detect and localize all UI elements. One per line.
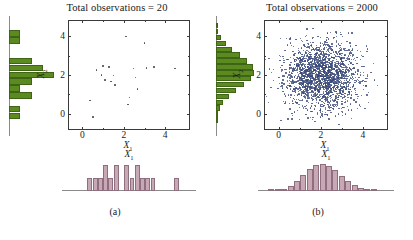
scatter-point (174, 68, 176, 70)
histogram-bar (281, 189, 287, 191)
scatter-point (293, 55, 294, 56)
scatter-point (320, 37, 321, 38)
scatter-point (324, 94, 325, 95)
scatter-point (306, 74, 307, 75)
scatter-point (320, 116, 321, 117)
scatter-point (306, 28, 307, 29)
scatter-point (353, 99, 354, 100)
scatter-point (291, 86, 292, 87)
scatter-point (348, 70, 349, 71)
scatter-point (303, 108, 304, 109)
scatter-point (340, 58, 341, 59)
scatter-point (331, 84, 332, 85)
scatter-point (363, 66, 364, 67)
scatter-point (349, 79, 350, 80)
scatter-point (350, 103, 351, 104)
scatter-point (283, 83, 284, 84)
scatter-point (270, 87, 271, 88)
histogram-bar (288, 186, 294, 191)
scatter-point (299, 78, 300, 79)
scatter-point (315, 105, 316, 106)
scatter-point (295, 39, 296, 40)
scatter-point (324, 62, 325, 63)
scatter-point (290, 88, 291, 89)
scatter-point (338, 77, 339, 78)
scatter-point (320, 62, 321, 63)
scatter-point (348, 64, 349, 65)
panel-a-scatter-area: 024024X1X2 (68, 20, 190, 130)
scatter-point (299, 77, 300, 78)
x-axis-minor-tick (145, 128, 146, 130)
scatter-point (289, 108, 290, 109)
scatter-point (331, 70, 332, 71)
scatter-point (283, 60, 284, 61)
histogram-bar (345, 181, 351, 191)
histogram-bar (135, 165, 140, 191)
histogram-bar (300, 175, 306, 191)
scatter-point (348, 55, 349, 56)
scatter-point (290, 57, 291, 58)
y-axis-minor-tick (68, 94, 70, 95)
scatter-point (330, 112, 331, 113)
scatter-point (330, 107, 331, 108)
panel-a-scatter-plot (68, 20, 190, 130)
scatter-point (324, 75, 325, 76)
y-axis-tick (385, 114, 388, 115)
scatter-point (289, 64, 290, 65)
scatter-point (338, 43, 339, 44)
x-axis-tick (321, 20, 322, 23)
scatter-point (325, 53, 326, 54)
scatter-point (266, 96, 267, 97)
scatter-point (296, 102, 297, 103)
scatter-point (299, 83, 300, 84)
scatter-point (326, 92, 327, 93)
histogram-bar (358, 188, 364, 191)
scatter-point (338, 108, 339, 109)
scatter-point (284, 103, 285, 104)
scatter-point (283, 62, 284, 63)
scatter-point (336, 59, 337, 60)
panel-b-marginal-histogram-x1: X1 (264, 160, 388, 196)
scatter-point (332, 99, 333, 100)
scatter-point (273, 80, 274, 81)
scatter-point (363, 72, 364, 73)
scatter-point (311, 105, 312, 106)
scatter-point (321, 101, 322, 102)
x-axis-minor-tick (145, 20, 146, 22)
scatter-point (336, 32, 337, 33)
scatter-point (315, 86, 316, 87)
y-axis-minor-tick (188, 94, 190, 95)
scatter-point (308, 56, 309, 57)
scatter-point (333, 38, 334, 39)
histogram-bar (108, 178, 113, 191)
panel-a-caption: (a) (0, 206, 206, 217)
scatter-point (318, 64, 319, 65)
histogram-bar (124, 165, 129, 191)
histogram-bar (140, 178, 145, 191)
scatter-point (294, 69, 295, 70)
scatter-point (312, 119, 313, 120)
scatter-point (322, 115, 323, 116)
scatter-point (352, 87, 353, 88)
histogram-bar (98, 178, 103, 191)
scatter-point (113, 75, 115, 77)
scatter-point (326, 47, 327, 48)
scatter-point (345, 66, 346, 67)
scatter-point (273, 69, 274, 70)
histogram-bar (313, 165, 319, 191)
scatter-point (268, 102, 269, 103)
scatter-point (306, 40, 307, 41)
x-axis-tick-label: 0 (276, 130, 281, 140)
scatter-point (316, 74, 317, 75)
scatter-point (360, 106, 361, 107)
scatter-point (282, 91, 283, 92)
scatter-point (300, 38, 301, 39)
scatter-point (370, 72, 371, 73)
scatter-point (310, 117, 311, 118)
scatter-point (295, 70, 296, 71)
scatter-point (291, 45, 292, 46)
scatter-point (298, 91, 299, 92)
histogram-bar (294, 181, 300, 191)
scatter-point (363, 85, 364, 86)
scatter-point (271, 72, 272, 73)
